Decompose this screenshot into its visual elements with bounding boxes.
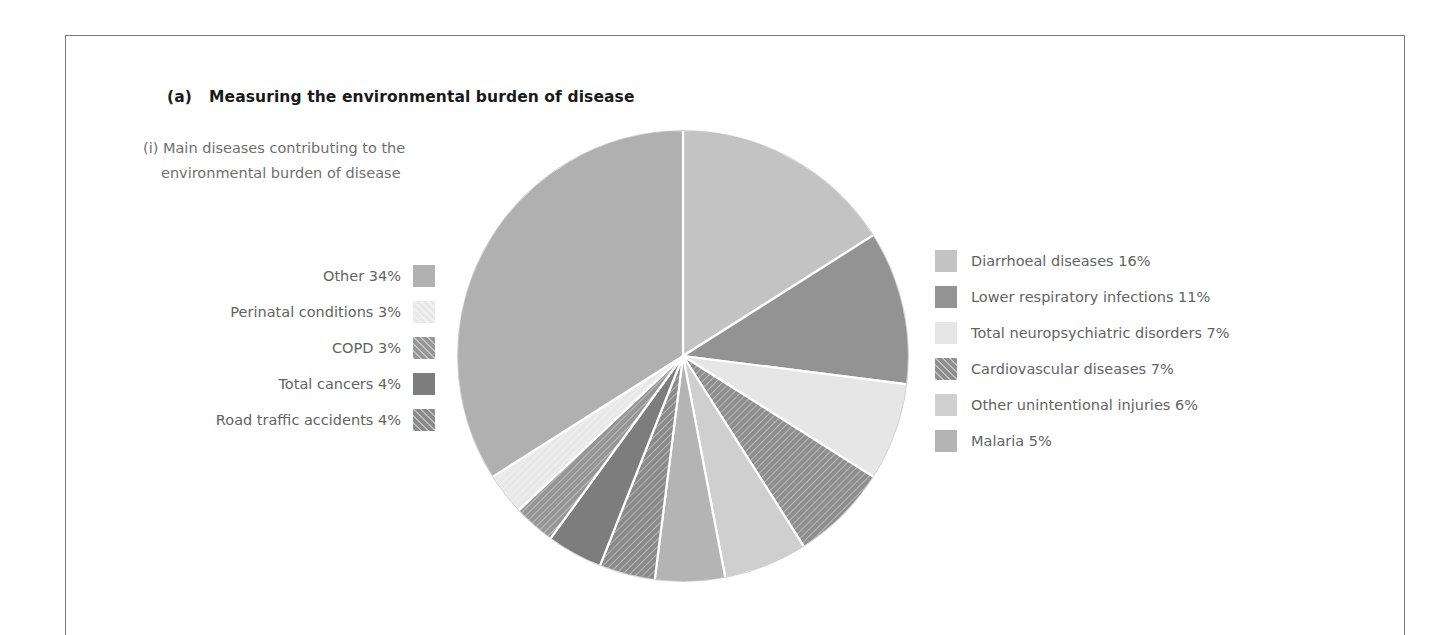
legend-item-diarrhoeal-diseases[interactable]: Diarrhoeal diseases 16% xyxy=(935,243,1415,279)
legend-item-other-unintentional-injuries[interactable]: Other unintentional injuries 6% xyxy=(935,387,1415,423)
legend-label: Cardiovascular diseases 7% xyxy=(971,362,1174,377)
legend-item-other[interactable]: Other 34% xyxy=(90,258,435,294)
legend-swatch-icon xyxy=(935,394,957,416)
legend-item-total-neuropsychiatric-disorders[interactable]: Total neuropsychiatric disorders 7% xyxy=(935,315,1415,351)
legend-right: Diarrhoeal diseases 16%Lower respiratory… xyxy=(935,243,1415,459)
legend-item-total-cancers[interactable]: Total cancers 4% xyxy=(90,366,435,402)
legend-swatch-icon xyxy=(935,430,957,452)
legend-label: Diarrhoeal diseases 16% xyxy=(971,254,1150,269)
legend-swatch-icon xyxy=(413,337,435,359)
panel-tag: (a) xyxy=(167,88,209,106)
legend-item-perinatal-conditions[interactable]: Perinatal conditions 3% xyxy=(90,294,435,330)
legend-swatch-icon xyxy=(413,265,435,287)
page-title: (a)Measuring the environmental burden of… xyxy=(167,88,635,106)
legend-label: Other 34% xyxy=(323,269,401,284)
legend-item-lower-respiratory-infections[interactable]: Lower respiratory infections 11% xyxy=(935,279,1415,315)
legend-swatch-icon xyxy=(935,286,957,308)
legend-label: Lower respiratory infections 11% xyxy=(971,290,1210,305)
legend-swatch-icon xyxy=(413,301,435,323)
legend-label: Malaria 5% xyxy=(971,434,1052,449)
panel-title-text: Measuring the environmental burden of di… xyxy=(209,88,635,106)
legend-swatch-icon xyxy=(935,322,957,344)
legend-label: Perinatal conditions 3% xyxy=(230,305,401,320)
legend-label: Road traffic accidents 4% xyxy=(216,413,401,428)
legend-swatch-icon xyxy=(935,358,957,380)
legend-swatch-icon xyxy=(935,250,957,272)
legend-item-road-traffic-accidents[interactable]: Road traffic accidents 4% xyxy=(90,402,435,438)
legend-item-copd[interactable]: COPD 3% xyxy=(90,330,435,366)
legend-label: COPD 3% xyxy=(332,341,401,356)
legend-left: Other 34%Perinatal conditions 3%COPD 3%T… xyxy=(90,258,435,438)
legend-item-cardiovascular-diseases[interactable]: Cardiovascular diseases 7% xyxy=(935,351,1415,387)
chart-subtitle: (i) Main diseases contributing to the en… xyxy=(143,136,473,186)
legend-label: Total cancers 4% xyxy=(278,377,401,392)
chart-subtitle-line1: (i) Main diseases contributing to the xyxy=(143,140,405,156)
legend-item-malaria[interactable]: Malaria 5% xyxy=(935,423,1415,459)
legend-label: Total neuropsychiatric disorders 7% xyxy=(971,326,1230,341)
chart-subtitle-line2: environmental burden of disease xyxy=(143,161,473,186)
legend-swatch-icon xyxy=(413,373,435,395)
legend-swatch-icon xyxy=(413,409,435,431)
legend-label: Other unintentional injuries 6% xyxy=(971,398,1198,413)
